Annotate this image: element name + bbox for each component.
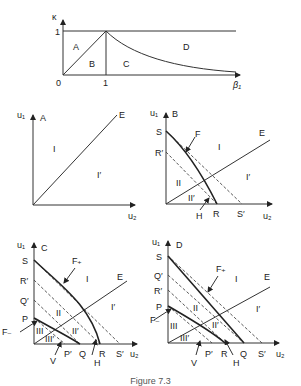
u2-label: u₂ (128, 211, 137, 221)
point-s-prime: S′ (258, 349, 266, 359)
region-i: I (86, 274, 89, 284)
region-i-prime: I′ (246, 172, 251, 182)
point-r: R (221, 349, 228, 359)
region-c: C (123, 59, 130, 69)
diagonal-line (63, 31, 106, 75)
point-p-prime: P′ (205, 349, 213, 359)
region-iii: III (36, 326, 44, 336)
region-ii-prime: II′ (72, 326, 79, 336)
point-q-prime: Q′ (20, 296, 29, 306)
region-ii-prime: II′ (188, 193, 195, 203)
u1-label: u₁ (17, 110, 25, 120)
region-b: B (89, 59, 95, 69)
beta-label: β₁ (232, 80, 241, 90)
point-s: S (156, 127, 162, 137)
y-tick-1: 1 (55, 27, 60, 37)
u1-label: u₁ (17, 240, 25, 250)
point-p: P (22, 314, 28, 324)
region-i: I (235, 274, 238, 284)
point-s: S (22, 256, 28, 266)
region-i: I (218, 142, 221, 152)
point-q-prime: Q′ (154, 271, 163, 281)
line-e (33, 115, 117, 205)
curve-f-label: F (195, 129, 201, 139)
point-r-prime: R′ (20, 276, 28, 286)
f-pointer (186, 137, 195, 152)
region-i-prime: I′ (111, 302, 116, 312)
point-r-prime: R′ (154, 286, 162, 296)
u1-label: u₁ (152, 237, 160, 247)
point-s-prime: S′ (116, 349, 124, 359)
panel-a: u₁ A E u₂ I I′ (17, 110, 137, 221)
curve-v-label: V (50, 356, 56, 366)
e-label: E (117, 272, 123, 282)
point-s-prime: S′ (237, 209, 245, 219)
u2-label: u₂ (130, 349, 139, 359)
region-i: I (53, 144, 56, 154)
x-tick-0: 0 (56, 78, 61, 88)
region-a: A (73, 42, 79, 52)
x-tick-1: 1 (103, 78, 108, 88)
top-chart: κ 1 0 1 β₁ A B C D (52, 12, 241, 90)
point-s: S (156, 252, 162, 262)
curve-f-plus-label: F₊ (216, 264, 227, 274)
point-p: P (156, 302, 162, 312)
curve-v-label: V (191, 358, 197, 368)
panel-id: C (41, 243, 48, 253)
point-r-prime: R′ (155, 148, 163, 158)
h-pointer (92, 340, 96, 355)
curve-f-plus-label: F₊ (72, 256, 83, 266)
point-p-prime: P′ (64, 349, 72, 359)
curve-f-minus-label: F₋ (2, 327, 13, 337)
region-ii: II (176, 178, 181, 188)
region-ii: II (193, 303, 198, 313)
u1-label: u₁ (150, 108, 158, 118)
point-q: Q (240, 349, 247, 359)
point-q: Q (79, 349, 86, 359)
curve-h-label: H (196, 211, 203, 221)
panel-id: D (176, 240, 183, 250)
region-iii-prime: III′ (180, 333, 190, 343)
f-plus-pointer (208, 276, 218, 292)
kappa-label: κ (52, 12, 57, 22)
f-plus-pointer (64, 268, 75, 283)
point-r: R (213, 209, 220, 219)
figure-caption: Figure 7.3 (0, 376, 301, 386)
curve-f-minus-label: F₋ (150, 315, 161, 325)
region-i-prime: I′ (97, 170, 102, 180)
region-iii-prime: III′ (45, 334, 55, 344)
panel-c: u₁ C S R′ Q′ P P′ Q R S′ u₂ E F₊ F₋ V H … (2, 240, 139, 368)
curve-h-label: H (233, 358, 240, 368)
u2-label: u₂ (263, 211, 272, 221)
e-label: E (119, 110, 125, 120)
panel-id: A (40, 113, 46, 123)
region-ii: II (56, 308, 61, 318)
region-d: D (183, 42, 190, 52)
panel-d: u₁ D S Q′ R′ P P′ R Q S′ u₂ E F₊ F₋ V H … (150, 237, 285, 368)
curve-h-label: H (94, 358, 101, 368)
panel-b: u₁ B S R′ R S′ u₂ E F H I I′ II II′ (150, 108, 272, 221)
e-label: E (259, 128, 265, 138)
panel-id: B (172, 109, 178, 119)
region-ii-prime: II′ (212, 320, 219, 330)
u2-label: u₂ (276, 349, 285, 359)
region-i-prime: I′ (256, 304, 261, 314)
region-iii: III (170, 321, 178, 331)
e-label: E (264, 272, 270, 282)
